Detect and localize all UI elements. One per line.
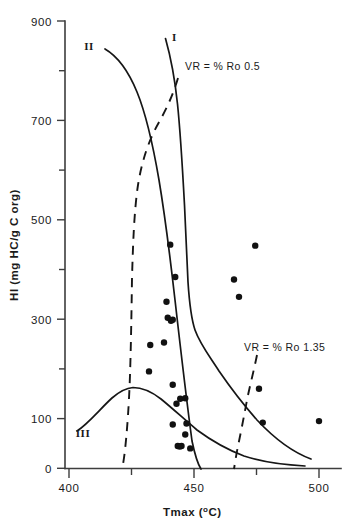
axes-group <box>65 21 341 469</box>
data-point <box>182 431 188 437</box>
data-point <box>252 242 258 248</box>
kerogen-curves-group <box>77 39 311 470</box>
vr-annotations-group: VR = % Ro 0.5 VR = % Ro 1.35 <box>185 60 325 353</box>
x-tick-label-400: 400 <box>59 482 80 494</box>
data-point <box>256 386 262 392</box>
y-axis-title: HI (mg HC/g C org) <box>8 189 20 301</box>
curve-labels-group: I II III <box>76 31 177 439</box>
x-axis-title: Tmax (oC) <box>163 505 222 518</box>
data-point <box>236 294 242 300</box>
data-point <box>147 342 153 348</box>
data-point <box>231 276 237 282</box>
annotation-vr-05: VR = % Ro 0.5 <box>185 60 260 72</box>
data-point <box>183 420 189 426</box>
y-tick-label-700: 700 <box>31 115 52 127</box>
x-tick-label-500: 500 <box>309 482 330 494</box>
curve-type-III <box>77 388 305 467</box>
data-point <box>182 395 188 401</box>
curve-label-III: III <box>76 427 90 439</box>
data-point <box>161 339 167 345</box>
vr-dashed-135 <box>234 355 257 469</box>
data-point <box>173 400 179 406</box>
data-point <box>170 421 176 427</box>
y-tick-label-300: 300 <box>31 314 52 326</box>
x-ticks-group <box>69 469 319 479</box>
data-point <box>170 317 176 323</box>
vr-dashed-lines-group <box>123 78 258 469</box>
x-tick-labels-group: 400 450 500 <box>59 482 330 494</box>
annotation-vr-135: VR = % Ro 1.35 <box>244 341 325 353</box>
data-point <box>170 382 176 388</box>
y-ticks-group <box>57 21 65 468</box>
data-point <box>163 299 169 305</box>
data-point <box>167 241 173 247</box>
y-tick-labels-group: 900 700 500 300 100 0 <box>31 16 52 475</box>
curve-label-II: II <box>84 40 94 52</box>
data-point <box>146 368 152 374</box>
y-tick-label-100: 100 <box>31 413 52 425</box>
y-tick-label-900: 900 <box>31 16 52 28</box>
data-point <box>187 445 193 451</box>
curve-label-I: I <box>172 31 177 43</box>
x-tick-label-450: 450 <box>184 482 205 494</box>
y-tick-label-500: 500 <box>31 214 52 226</box>
y-tick-label-0: 0 <box>45 463 52 475</box>
data-point <box>316 418 322 424</box>
data-point <box>260 419 266 425</box>
chart-figure: 900 700 500 300 100 0 400 450 500 Tmax (… <box>0 0 355 524</box>
data-point <box>178 443 184 449</box>
data-point <box>172 274 178 280</box>
hi-vs-tmax-scatter-plot: 900 700 500 300 100 0 400 450 500 Tmax (… <box>0 0 355 524</box>
